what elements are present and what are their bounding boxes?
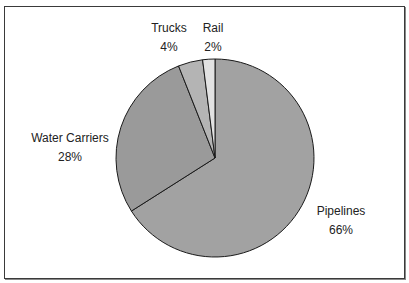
pie-slices: [116, 59, 314, 257]
label-pipelines: Pipelines 66%: [296, 202, 386, 240]
label-pipelines-pct: 66%: [296, 221, 386, 240]
label-water-name: Water Carriers: [20, 129, 120, 148]
label-rail-pct: 2%: [193, 38, 233, 57]
label-trucks-pct: 4%: [144, 38, 194, 57]
label-pipelines-name: Pipelines: [296, 202, 386, 221]
label-rail-name: Rail: [193, 19, 233, 38]
label-trucks-name: Trucks: [144, 19, 194, 38]
label-rail: Rail 2%: [193, 19, 233, 57]
label-trucks: Trucks 4%: [144, 19, 194, 57]
label-water-pct: 28%: [20, 148, 120, 167]
label-water-carriers: Water Carriers 28%: [20, 129, 120, 167]
